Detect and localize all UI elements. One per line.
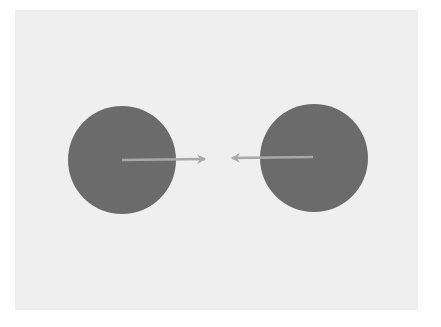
left-force-arrow — [122, 159, 205, 160]
right-force-arrow — [232, 157, 313, 158]
diagram-canvas — [0, 0, 441, 327]
